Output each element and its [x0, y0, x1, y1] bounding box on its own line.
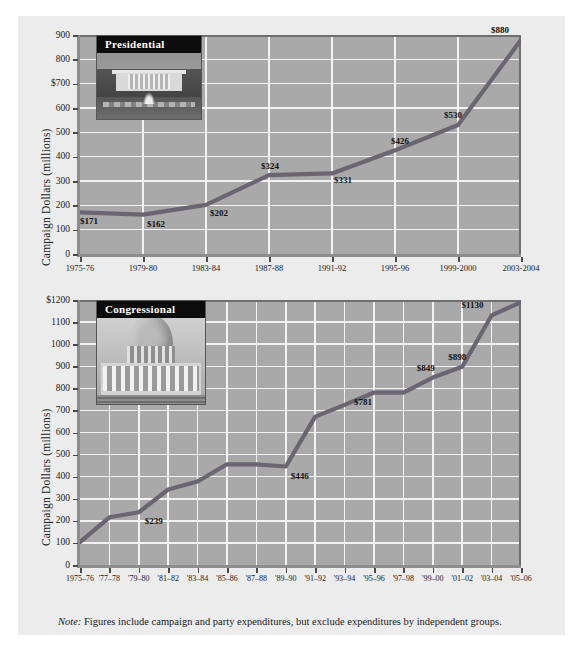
data-point-label: $239 [145, 516, 163, 526]
data-point-label: $202 [210, 208, 228, 218]
y-tick-mark [73, 521, 78, 523]
y-tick-label: $1200 [18, 295, 70, 306]
presidential-y-axis-title: Campaign Dollars (millions) [40, 128, 52, 266]
capitol-photo: Congressional [96, 300, 206, 405]
photo-steps [97, 395, 205, 404]
y-tick-label: 800 [18, 383, 70, 394]
photo-colonnade [103, 366, 198, 391]
y-tick-label: 300 [18, 493, 70, 504]
y-tick-label: 1000 [18, 339, 70, 350]
white-house-photo: Presidential [96, 35, 202, 120]
y-tick-label: 100 [18, 537, 70, 548]
y-tick-label: 700 [18, 405, 70, 416]
y-tick-mark [73, 254, 78, 256]
y-tick-label: 0 [18, 249, 70, 260]
y-tick-mark [73, 388, 78, 390]
x-tick-mark [433, 568, 435, 573]
data-point-label: $781 [354, 397, 372, 407]
x-tick-mark [80, 257, 82, 262]
y-tick-mark [73, 59, 78, 61]
y-tick-mark [73, 455, 78, 457]
y-tick-label: 600 [18, 103, 70, 114]
note-text: Figures include campaign and party expen… [81, 616, 501, 627]
y-tick-mark [73, 35, 78, 37]
x-tick-mark [374, 568, 376, 573]
x-tick-mark [345, 568, 347, 573]
y-tick-label: 200 [18, 515, 70, 526]
y-tick-mark [73, 157, 78, 159]
y-tick-mark [73, 499, 78, 501]
y-tick-label: $700 [18, 78, 70, 89]
y-tick-label: 400 [18, 151, 70, 162]
x-tick-mark [143, 257, 145, 262]
y-tick-label: 600 [18, 427, 70, 438]
y-tick-mark [73, 84, 78, 86]
data-point-label: $849 [417, 363, 435, 373]
y-tick-mark [73, 300, 78, 302]
data-point-label: $162 [147, 219, 165, 229]
x-tick-mark [198, 568, 200, 573]
y-tick-label: 500 [18, 127, 70, 138]
x-tick-mark [521, 257, 523, 262]
y-tick-mark [73, 108, 78, 110]
y-tick-label: 1100 [18, 317, 70, 328]
y-tick-mark [73, 205, 78, 207]
data-point-label: $446 [291, 471, 309, 481]
figure-note: Note: Figures include campaign and party… [58, 616, 502, 627]
y-tick-label: 800 [18, 54, 70, 65]
x-tick-mark [269, 257, 271, 262]
y-tick-mark [73, 565, 78, 567]
x-tick-mark [315, 568, 317, 573]
figure-page: Campaign Dollars (millions) 010020030040… [0, 0, 583, 653]
y-tick-label: 300 [18, 176, 70, 187]
y-tick-label: 100 [18, 224, 70, 235]
congressional-caption: Congressional [97, 301, 205, 318]
y-tick-label: 500 [18, 449, 70, 460]
y-tick-mark [73, 543, 78, 545]
y-tick-label: 400 [18, 471, 70, 482]
y-tick-mark [73, 132, 78, 134]
x-tick-mark [403, 568, 405, 573]
x-tick-mark [227, 568, 229, 573]
data-point-label: $880 [491, 25, 509, 35]
x-tick-mark [332, 257, 334, 262]
data-point-label: $324 [261, 161, 279, 171]
data-point-label: $426 [391, 136, 409, 146]
x-tick-label: 2003-2004 [476, 263, 566, 273]
x-tick-mark [109, 568, 111, 573]
y-tick-mark [73, 410, 78, 412]
y-tick-label: 900 [18, 30, 70, 41]
y-tick-mark [73, 230, 78, 232]
x-tick-label: '05–06 [476, 574, 566, 583]
data-point-label: $898 [448, 352, 466, 362]
x-tick-mark [286, 568, 288, 573]
x-tick-mark [395, 257, 397, 262]
photo-dome-drum [127, 346, 175, 362]
y-tick-label: 200 [18, 200, 70, 211]
data-point-label: $171 [80, 216, 98, 226]
y-tick-label: 0 [18, 560, 70, 571]
figure-panel: Campaign Dollars (millions) 010020030040… [18, 16, 565, 635]
x-tick-mark [139, 568, 141, 573]
x-tick-mark [521, 568, 523, 573]
x-tick-mark [168, 568, 170, 573]
y-tick-mark [73, 477, 78, 479]
x-tick-mark [80, 568, 82, 573]
x-tick-mark [462, 568, 464, 573]
data-point-label: $530 [444, 110, 462, 120]
photo-fountain [143, 92, 155, 104]
data-point-label: $1130 [462, 300, 484, 310]
y-tick-mark [73, 181, 78, 183]
note-prefix: Note: [58, 616, 81, 627]
x-tick-mark [256, 568, 258, 573]
y-tick-mark [73, 366, 78, 368]
x-tick-mark [458, 257, 460, 262]
x-tick-mark [492, 568, 494, 573]
presidential-caption: Presidential [97, 36, 201, 53]
y-tick-mark [73, 344, 78, 346]
x-tick-mark [206, 257, 208, 262]
presidential-chart: Campaign Dollars (millions) 010020030040… [18, 16, 565, 284]
photo-columns [128, 74, 170, 89]
y-tick-mark [73, 433, 78, 435]
y-tick-mark [73, 322, 78, 324]
